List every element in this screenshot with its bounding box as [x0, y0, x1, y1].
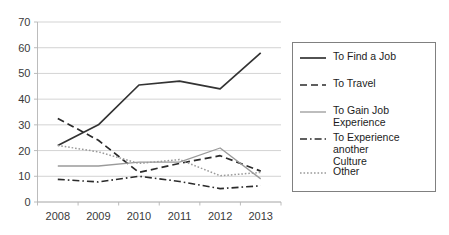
legend-item-4[interactable]: Other: [300, 165, 435, 192]
x-axis-tick-label: 2012: [208, 210, 232, 222]
y-axis-tick-label: 60: [18, 42, 30, 54]
x-axis-tick-label: 2008: [46, 210, 70, 222]
legend-item-label: To Gain Job Experience: [333, 104, 435, 128]
x-axis-tick-label: 2010: [127, 210, 151, 222]
legend-item-2[interactable]: To Gain Job Experience: [300, 104, 435, 131]
axes: [34, 22, 281, 206]
legend-line-swatch-icon: [300, 133, 326, 145]
y-axis-tick-label: 20: [18, 145, 30, 157]
y-axis-tick-label: 70: [18, 16, 30, 28]
series-line-1: [58, 118, 261, 172]
x-axis-tick-label: 2013: [248, 210, 272, 222]
legend-line-swatch-icon: [300, 167, 326, 179]
chart-screenshot: 010203040506070 200820092010201120122013…: [0, 0, 449, 235]
y-axis-tick-label: 30: [18, 119, 30, 131]
legend-line-swatch-icon: [300, 52, 326, 64]
legend-item-3[interactable]: To Experience another Culture: [300, 131, 435, 165]
x-axis-tick-label: 2011: [168, 210, 192, 222]
legend-item-1[interactable]: To Travel: [300, 77, 435, 104]
y-axis-tick-label: 10: [18, 170, 30, 182]
y-axis-tick-labels: 010203040506070: [18, 16, 30, 208]
y-axis-tick-label: 40: [18, 93, 30, 105]
legend-item-label: To Experience another Culture: [333, 131, 435, 167]
gridlines: [38, 22, 282, 202]
y-axis-tick-label: 0: [24, 196, 30, 208]
x-axis-tick-labels: 200820092010201120122013: [46, 210, 273, 222]
y-axis-tick-label: 50: [18, 67, 30, 79]
series-line-3: [58, 176, 261, 188]
series-line-4: [58, 145, 261, 175]
legend-line-swatch-icon: [300, 79, 326, 91]
chart-legend: To Find a JobTo TravelTo Gain Job Experi…: [292, 42, 436, 192]
legend-item-label: To Travel: [333, 77, 376, 89]
legend-item-label: To Find a Job: [333, 50, 396, 62]
legend-line-swatch-icon: [300, 106, 326, 118]
legend-item-0[interactable]: To Find a Job: [300, 50, 435, 77]
series-line-2: [58, 148, 261, 179]
x-axis-tick-label: 2009: [86, 210, 110, 222]
legend-item-label: Other: [333, 165, 359, 177]
